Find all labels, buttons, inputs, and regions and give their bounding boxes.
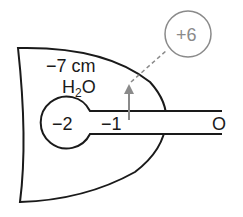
pleural-pressure-label: −7 cm <box>46 56 96 76</box>
leader-dashed-line <box>131 50 167 82</box>
alveolar-pressure-label: −2 <box>52 114 73 134</box>
transmural-pressure-label: +6 <box>176 25 197 45</box>
mouth-pressure-label: O <box>212 114 226 134</box>
airway-pressure-label: −1 <box>101 114 122 134</box>
pressure-diagram: −7 cm H2O −2 −1 O +6 <box>0 0 243 217</box>
